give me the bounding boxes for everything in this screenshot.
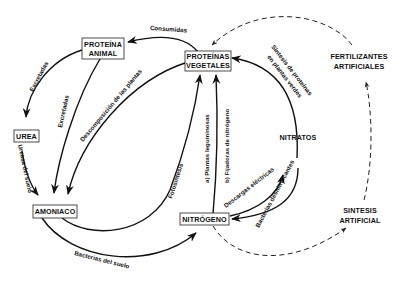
edge-consumidas <box>128 37 198 52</box>
node-fertilizantes: FERTILIZANTES ARTIFICIALES <box>330 52 387 71</box>
label-bacterias-suelo: Bacterias del suelo <box>74 249 131 269</box>
label-fijadoras: b) Fijadoras de nitrógeno <box>223 109 230 183</box>
svg-text:PROTEÍNA: PROTEÍNA <box>84 40 122 49</box>
node-nitratos: NITRATOS <box>280 133 317 142</box>
edge-dash-sintesis-fertilizantes <box>364 82 371 200</box>
edge-dash-nitrogeno-sintesis <box>213 226 346 256</box>
svg-text:PROTEÍNAS: PROTEÍNAS <box>187 52 230 61</box>
node-proteina-animal: PROTEÍNA ANIMAL <box>82 38 124 59</box>
svg-text:NITRATOS: NITRATOS <box>280 133 317 142</box>
node-amoniaco: AMONIACO <box>33 205 77 218</box>
label-leguminosas: a) Plantas leguminosas <box>203 114 210 183</box>
svg-text:ANIMAL: ANIMAL <box>89 49 118 58</box>
label-desnitrificantes: Bacterias desnitrificantes <box>254 158 296 228</box>
label-ureasa: Ureasa del suelo <box>17 144 34 194</box>
node-sintesis-artificial: SINTESIS ARTIFICIAL <box>340 206 381 225</box>
svg-text:ARTIFICIALES: ARTIFICIALES <box>334 62 385 71</box>
nitrogen-cycle-diagram: PROTEÍNA ANIMAL PROTEÍNAS VEGETALES FERT… <box>0 0 395 284</box>
label-fotosintesis: Fotosíntesis <box>166 162 184 199</box>
node-proteinas-vegetales: PROTEÍNAS VEGETALES <box>185 51 231 71</box>
svg-text:AMONIACO: AMONIACO <box>35 207 76 216</box>
edge-fotosintesis <box>62 75 200 231</box>
svg-text:SINTESIS: SINTESIS <box>343 206 377 215</box>
svg-text:UREA: UREA <box>16 132 37 141</box>
svg-text:FERTILIZANTES: FERTILIZANTES <box>330 52 387 61</box>
edge-bacterias-suelo <box>42 218 196 257</box>
node-nitrogeno: NITRÓGENO <box>180 213 229 225</box>
node-urea: UREA <box>14 130 39 142</box>
svg-text:ARTIFICIAL: ARTIFICIAL <box>340 216 381 225</box>
svg-text:VEGETALES: VEGETALES <box>186 61 230 70</box>
svg-text:NITRÓGENO: NITRÓGENO <box>182 215 227 224</box>
label-excretadas-amoniaco: Excretadas <box>56 94 70 128</box>
label-excretadas-urea: Excretadas <box>28 60 50 93</box>
edge-dash-fertilizantes-proteinas <box>212 17 352 45</box>
edge-fijacion <box>213 75 217 214</box>
label-consumidas: Consumidas <box>150 24 188 34</box>
label-descomposicion: Descomposición de las plantas <box>78 67 143 143</box>
